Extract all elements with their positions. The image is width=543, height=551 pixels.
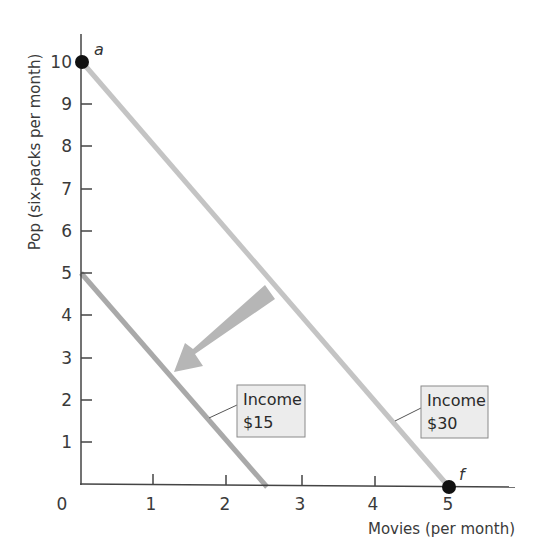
svg-text:1: 1 <box>61 432 72 452</box>
svg-text:$15: $15 <box>243 413 274 432</box>
svg-text:3: 3 <box>295 494 306 514</box>
y-tick-labels: 10 9 8 7 6 5 4 3 2 1 <box>50 52 72 452</box>
svg-text:5: 5 <box>443 494 454 514</box>
svg-text:9: 9 <box>61 94 72 114</box>
svg-text:2: 2 <box>61 390 72 410</box>
y-axis-title: Pop (six-packs per month) <box>26 54 44 251</box>
svg-text:7: 7 <box>61 179 72 199</box>
label-income-30: Income $30 <box>395 386 488 438</box>
svg-text:0: 0 <box>57 494 68 514</box>
shift-arrow-icon <box>174 285 275 372</box>
svg-text:4: 4 <box>368 494 379 514</box>
svg-text:5: 5 <box>61 263 72 283</box>
point-f-marker <box>442 480 456 494</box>
svg-text:Income: Income <box>243 390 302 409</box>
point-a-marker <box>75 55 89 69</box>
point-a-label: a <box>94 40 104 59</box>
budget-line-chart: 10 9 8 7 6 5 4 3 2 1 0 1 2 3 4 5 Movies … <box>0 0 543 551</box>
svg-text:8: 8 <box>61 136 72 156</box>
x-axis-title: Movies (per month) <box>368 520 515 538</box>
budget-line-income-15 <box>81 273 267 487</box>
svg-text:4: 4 <box>61 305 72 325</box>
label-income-15: Income $15 <box>209 385 305 437</box>
svg-text:3: 3 <box>61 348 72 368</box>
x-tick-labels: 0 1 2 3 4 5 <box>57 494 454 514</box>
point-f-label: f <box>459 465 467 484</box>
svg-text:1: 1 <box>146 494 157 514</box>
svg-text:2: 2 <box>220 494 231 514</box>
y-ticks <box>81 104 92 442</box>
svg-text:Income: Income <box>427 391 486 410</box>
svg-text:6: 6 <box>61 221 72 241</box>
svg-text:$30: $30 <box>427 414 458 433</box>
svg-text:10: 10 <box>50 52 72 72</box>
